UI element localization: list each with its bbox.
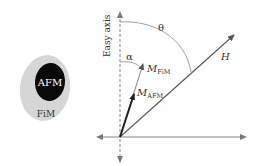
m-afm-main: M bbox=[136, 87, 148, 98]
easy-axis bbox=[117, 11, 123, 163]
m-afm-sub: AFM bbox=[146, 92, 163, 100]
horizontal-axis bbox=[96, 134, 247, 140]
diagram-canvas: AFM FiM Easy axis θ α H MFiM MAFM bbox=[0, 0, 255, 166]
afm-core-label: AFM bbox=[37, 77, 62, 88]
core-shell-particle: AFM FiM bbox=[16, 52, 75, 124]
theta-label: θ bbox=[158, 22, 164, 33]
alpha-label: α bbox=[126, 51, 133, 62]
m-fim-main: M bbox=[146, 63, 158, 74]
m-fim-sub: FiM bbox=[157, 68, 171, 76]
m-afm-label: MAFM bbox=[136, 87, 163, 100]
field-h-label: H bbox=[220, 51, 230, 62]
field-h-vector bbox=[120, 35, 234, 137]
m-fim-label: MFiM bbox=[146, 63, 171, 76]
fim-shell-label: FiM bbox=[37, 109, 55, 119]
easy-axis-label: Easy axis bbox=[102, 14, 112, 57]
alpha-arc bbox=[120, 62, 141, 68]
